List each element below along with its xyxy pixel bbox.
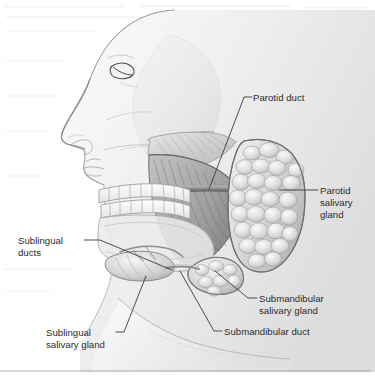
label-sublingual-ducts: Sublingual ducts	[18, 235, 66, 258]
label-parotid-duct: Parotid duct	[253, 92, 305, 103]
label-submandibular-salivary-gland: Submandibular salivary gland	[259, 293, 326, 316]
anatomy-illustration-svg: Parotid duct Parotid salivary gland Subl…	[0, 0, 375, 386]
label-submandibular-duct: Submandibular duct	[224, 326, 310, 337]
anatomy-figure: Parotid duct Parotid salivary gland Subl…	[0, 0, 375, 386]
sublingual-gland-body	[105, 251, 174, 281]
